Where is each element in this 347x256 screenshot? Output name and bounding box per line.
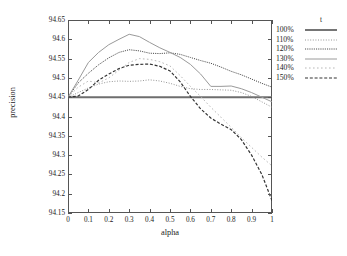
legend-item-label: 120% (276, 44, 301, 54)
series-line (68, 59, 272, 166)
x-tick-label: 0.1 (84, 216, 93, 224)
x-axis-title: alpha (68, 228, 272, 237)
y-tick-label: 94.35 (49, 132, 65, 140)
legend: t 100%110%120%130%140%150% (276, 16, 346, 83)
x-tick-label: 0.7 (206, 216, 215, 224)
x-tick-mark (272, 20, 273, 24)
y-tick-mark (268, 59, 272, 60)
x-tick-mark (211, 209, 212, 213)
y-tick-mark (268, 39, 272, 40)
x-tick-mark (252, 209, 253, 213)
y-tick-label: 94.15 (49, 209, 65, 217)
x-tick-label: 0.3 (125, 216, 134, 224)
legend-item-label: 150% (276, 73, 301, 83)
legend-item-label: 140% (276, 63, 301, 73)
x-tick-mark (129, 20, 130, 24)
legend-item-label: 100% (276, 25, 301, 35)
y-tick-label: 94.4 (52, 113, 65, 121)
y-tick-mark (68, 59, 72, 60)
y-tick-mark (68, 117, 72, 118)
y-tick-mark (68, 213, 72, 214)
y-tick-mark (68, 39, 72, 40)
legend-item-label: 130% (276, 54, 301, 64)
x-tick-mark (170, 209, 171, 213)
legend-item-140pct[interactable]: 140% (276, 63, 346, 73)
x-tick-label: 0.4 (145, 216, 154, 224)
y-tick-mark (268, 97, 272, 98)
x-tick-mark (109, 209, 110, 213)
y-tick-mark (268, 213, 272, 214)
legend-item-100pct[interactable]: 100% (276, 25, 346, 35)
series-line (68, 34, 272, 102)
x-tick-mark (252, 20, 253, 24)
chart-container: 94.1594.294.2594.394.3594.494.4594.594.5… (0, 0, 347, 256)
x-tick-mark (190, 20, 191, 24)
y-tick-mark (268, 194, 272, 195)
y-tick-mark (68, 155, 72, 156)
legend-line-sample (304, 54, 338, 64)
x-tick-label: 0.9 (247, 216, 256, 224)
x-tick-mark (150, 20, 151, 24)
x-tick-mark (211, 20, 212, 24)
x-tick-mark (190, 209, 191, 213)
legend-item-150pct[interactable]: 150% (276, 73, 346, 83)
x-tick-label: 0.5 (166, 216, 175, 224)
legend-entries: 100%110%120%130%140%150% (276, 25, 346, 83)
y-tick-label: 94.65 (49, 16, 65, 24)
x-tick-mark (129, 209, 130, 213)
legend-line-sample (304, 44, 338, 54)
y-tick-label: 94.5 (52, 74, 65, 82)
x-tick-label: 0.6 (186, 216, 195, 224)
legend-item-120pct[interactable]: 120% (276, 44, 346, 54)
y-tick-label: 94.55 (49, 55, 65, 63)
x-tick-mark (88, 20, 89, 24)
y-tick-mark (68, 97, 72, 98)
y-tick-mark (68, 194, 72, 195)
x-tick-mark (231, 20, 232, 24)
y-tick-label: 94.45 (49, 93, 65, 101)
x-tick-mark (170, 20, 171, 24)
legend-line-sample (304, 35, 338, 45)
series-line (68, 64, 272, 201)
x-tick-label: 0 (66, 216, 70, 224)
y-tick-label: 94.3 (52, 151, 65, 159)
legend-line-sample (304, 25, 338, 35)
y-axis-title: precision (8, 63, 17, 143)
x-tick-mark (272, 209, 273, 213)
y-tick-mark (268, 117, 272, 118)
y-tick-mark (68, 136, 72, 137)
series-line (68, 80, 272, 107)
x-tick-mark (109, 20, 110, 24)
x-tick-label: 0.2 (104, 216, 113, 224)
y-tick-label: 94.6 (52, 35, 65, 43)
y-tick-mark (268, 174, 272, 175)
y-tick-mark (268, 136, 272, 137)
chart-curves (68, 20, 272, 213)
legend-item-130pct[interactable]: 130% (276, 54, 346, 64)
y-tick-mark (68, 174, 72, 175)
y-tick-mark (68, 78, 72, 79)
y-tick-label: 94.2 (52, 190, 65, 198)
x-tick-label: 1 (270, 216, 274, 224)
x-tick-mark (88, 209, 89, 213)
x-tick-mark (68, 20, 69, 24)
legend-item-110pct[interactable]: 110% (276, 35, 346, 45)
legend-title: t (298, 16, 344, 25)
y-tick-label: 94.25 (49, 170, 65, 178)
y-tick-mark (268, 155, 272, 156)
x-tick-mark (150, 209, 151, 213)
series-line (68, 50, 272, 97)
legend-line-sample (304, 73, 338, 83)
x-tick-label: 0.8 (227, 216, 236, 224)
y-tick-mark (268, 78, 272, 79)
x-tick-mark (231, 209, 232, 213)
legend-line-sample (304, 63, 338, 73)
legend-item-label: 110% (276, 35, 301, 45)
x-tick-mark (68, 209, 69, 213)
